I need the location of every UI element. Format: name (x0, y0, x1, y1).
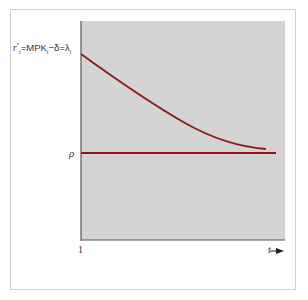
x-axis-label: t (268, 244, 271, 255)
rho-label: ρ (69, 147, 74, 159)
arrow-right-icon (276, 248, 284, 254)
x-start-tick-label: 1 (78, 244, 83, 255)
plot-area (81, 21, 285, 240)
y-axis-label: r*t=MPKt−δ=λt (13, 42, 71, 55)
